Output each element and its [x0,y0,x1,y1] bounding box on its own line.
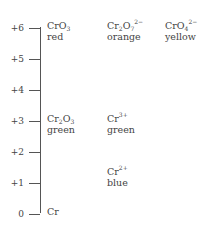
axis-line [40,27,41,213]
axis-tick-label: 0 [2,209,24,219]
species-formula: Cr2O72− [107,20,143,31]
axis-tick [29,90,40,91]
species-label: CrO3red [47,20,70,42]
axis-tick [29,152,40,153]
species-color: green [47,124,75,135]
axis-tick-label: +3 [2,116,24,126]
formula-sup: 2− [134,18,143,25]
species-formula: Cr3+ [107,113,135,124]
axis-tick-label: +5 [2,54,24,64]
species-color: orange [107,31,143,42]
species-color: red [47,31,70,42]
species-color: yellow [165,31,197,42]
axis-tick [29,121,40,122]
axis-tick [29,214,40,215]
species-formula: Cr2O3 [47,113,75,124]
species-label: CrO42−yellow [165,20,197,42]
formula-base: Cr [107,166,119,177]
axis-tick-label: +4 [2,85,24,95]
species-color: green [107,124,135,135]
formula-base: CrO [165,20,185,31]
formula-base: Cr [107,113,119,124]
formula-sup: 2− [188,18,197,25]
species-label: Cr3+green [107,113,135,135]
axis-tick [29,183,40,184]
species-formula: Cr [47,206,59,217]
formula-base: Cr [47,206,59,217]
species-label: Cr [47,206,59,217]
species-formula: CrO3 [47,20,70,31]
species-label: Cr2+blue [107,166,128,188]
axis-tick-label: +6 [2,23,24,33]
species-color: blue [107,177,128,188]
formula-base: CrO [47,20,67,31]
species-formula: CrO42− [165,20,197,31]
axis-tick-label: +2 [2,147,24,157]
formula-base: Cr [47,113,59,124]
axis-tick [29,59,40,60]
axis-tick-label: +1 [2,178,24,188]
species-label: Cr2O3green [47,113,75,135]
formula-base: Cr [107,20,119,31]
formula-sup: 3+ [119,111,128,118]
formula-sup: 2+ [119,164,128,171]
formula-sub: 3 [67,25,71,32]
species-formula: Cr2+ [107,166,128,177]
axis-tick [29,28,40,29]
species-label: Cr2O72−orange [107,20,143,42]
